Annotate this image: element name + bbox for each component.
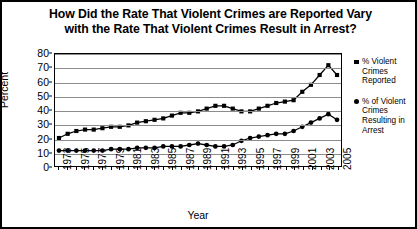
y-axis-tick-label: 30 xyxy=(37,118,49,130)
x-axis-ticks: 1973197519771979198119831985198719891991… xyxy=(54,167,342,209)
circle-marker xyxy=(187,143,192,148)
x-axis-tick-label: 1981 xyxy=(132,148,143,170)
x-axis-tick-label: 1975 xyxy=(80,148,91,170)
x-axis-tick-mark xyxy=(268,167,269,170)
x-axis-tick-mark xyxy=(321,167,322,170)
chart-title: How Did the Rate That Violent Crimes are… xyxy=(10,7,411,36)
square-marker xyxy=(300,90,304,94)
square-marker xyxy=(74,129,78,133)
legend-label: % of Violent Crimes Resulting in Arrest xyxy=(362,97,416,135)
y-axis-tick-mark xyxy=(49,95,52,96)
square-marker xyxy=(326,63,330,67)
square-marker xyxy=(100,126,104,130)
x-axis-tick-mark xyxy=(93,167,94,170)
circle-marker xyxy=(309,120,314,125)
y-axis-tick-label: 80 xyxy=(37,47,49,59)
chart-title-line-2: with the Rate That Violent Crimes Result… xyxy=(10,22,411,37)
circle-marker xyxy=(57,148,62,153)
square-marker xyxy=(265,104,269,108)
circle-marker xyxy=(317,116,322,121)
legend-entry: % of Violent Crimes Resulting in Arrest xyxy=(354,97,416,135)
y-axis-tick-mark xyxy=(49,124,52,125)
x-axis-tick-label: 1993 xyxy=(237,148,248,170)
circle-marker xyxy=(178,144,183,149)
y-axis-tick-mark xyxy=(49,67,52,68)
square-marker xyxy=(318,73,322,77)
square-marker-icon xyxy=(354,60,359,64)
y-axis-tick-label: 10 xyxy=(37,147,49,159)
x-axis-tick-label: 1979 xyxy=(115,148,126,170)
gridline xyxy=(55,125,341,126)
square-marker xyxy=(135,121,139,125)
x-axis-tick-mark xyxy=(111,167,112,170)
y-axis-tick-label: 40 xyxy=(37,104,49,116)
square-marker xyxy=(222,104,226,108)
circle-marker xyxy=(265,133,270,138)
circle-marker xyxy=(230,143,235,148)
y-axis-ticks: 01020304050607080 xyxy=(22,53,52,167)
y-axis-tick-mark xyxy=(49,152,52,153)
y-axis-tick-label: 70 xyxy=(37,61,49,73)
x-axis-tick-mark xyxy=(303,167,304,170)
circle-marker xyxy=(283,131,288,136)
x-axis-tick-label: 1987 xyxy=(185,148,196,170)
square-marker xyxy=(83,128,87,132)
x-axis-tick-mark xyxy=(163,167,164,170)
x-axis-tick-mark xyxy=(181,167,182,170)
y-axis-tick-mark xyxy=(49,53,52,54)
circle-marker xyxy=(256,134,261,139)
y-axis-tick-mark xyxy=(49,167,52,168)
circle-marker xyxy=(335,117,340,122)
y-axis-title: Percent xyxy=(0,72,10,108)
x-axis-tick-mark xyxy=(338,167,339,170)
gridline xyxy=(55,111,341,112)
y-axis-tick-label: 60 xyxy=(37,76,49,88)
x-axis-tick-mark xyxy=(128,167,129,170)
x-axis-tick-label: 1973 xyxy=(62,148,73,170)
x-axis-tick-mark xyxy=(58,167,59,170)
x-axis-tick-mark xyxy=(146,167,147,170)
y-axis-tick-label: 20 xyxy=(37,133,49,145)
circle-marker xyxy=(196,141,201,146)
circle-marker xyxy=(91,148,96,153)
legend-label: % Violent Crimes Reported xyxy=(362,57,416,86)
circle-marker xyxy=(291,129,296,134)
square-marker xyxy=(170,114,174,118)
circle-marker xyxy=(109,147,114,152)
circle-marker-icon xyxy=(354,99,359,104)
x-axis-tick-label: 1977 xyxy=(97,148,108,170)
gridline xyxy=(55,68,341,69)
x-axis-tick-mark xyxy=(216,167,217,170)
circle-marker xyxy=(161,144,166,149)
gridline xyxy=(55,54,341,55)
square-marker xyxy=(283,100,287,104)
square-marker xyxy=(92,128,96,132)
x-axis-tick-mark xyxy=(233,167,234,170)
square-marker xyxy=(274,101,278,105)
x-axis-tick-label: 1983 xyxy=(150,148,161,170)
x-axis-tick-label: 1991 xyxy=(220,148,231,170)
gridline xyxy=(55,97,341,98)
square-marker xyxy=(66,132,70,136)
legend-entry: % Violent Crimes Reported xyxy=(354,57,416,86)
y-axis-tick-mark xyxy=(49,110,52,111)
circle-marker xyxy=(204,143,209,148)
y-axis-tick-mark xyxy=(49,81,52,82)
x-axis-tick-label: 2005 xyxy=(342,148,353,170)
x-axis-tick-mark xyxy=(76,167,77,170)
x-axis-tick-mark xyxy=(198,167,199,170)
x-axis-tick-mark xyxy=(251,167,252,170)
circle-marker xyxy=(213,144,218,149)
y-axis-tick-label: 50 xyxy=(37,90,49,102)
x-axis-tick-label: 2003 xyxy=(325,148,336,170)
y-axis-tick-mark xyxy=(49,138,52,139)
square-marker xyxy=(161,116,165,120)
circle-marker xyxy=(74,148,79,153)
x-axis-title: Year xyxy=(54,209,342,221)
x-axis-tick-label: 1995 xyxy=(255,148,266,170)
x-axis-tick-label: 1989 xyxy=(202,148,213,170)
square-marker xyxy=(291,98,295,102)
circle-marker xyxy=(274,131,279,136)
square-marker xyxy=(213,104,217,108)
x-axis-tick-label: 2001 xyxy=(307,148,318,170)
